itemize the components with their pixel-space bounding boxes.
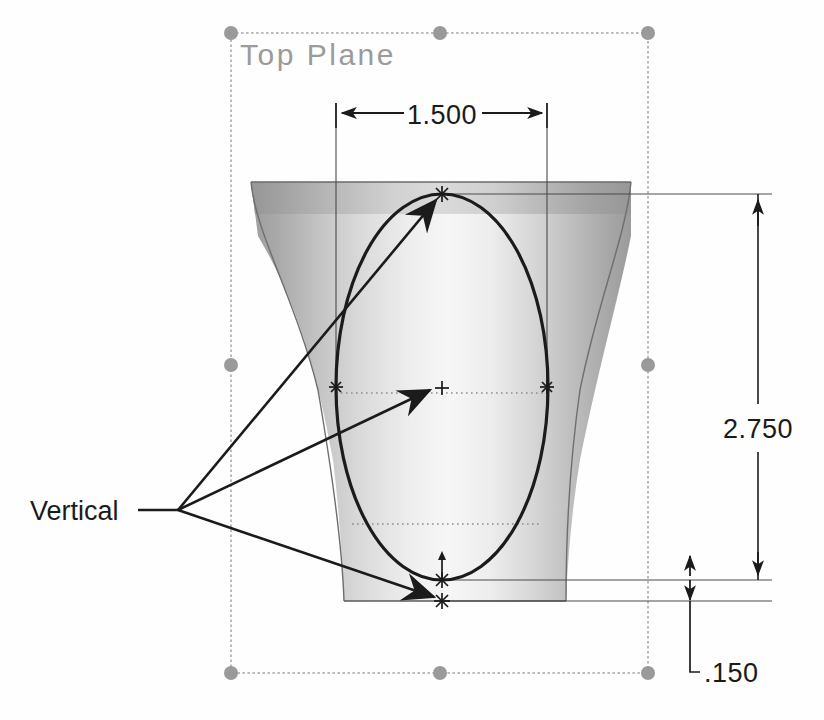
offset-dim-value[interactable]: .150: [704, 658, 759, 688]
offset-dim-leader: [690, 601, 700, 672]
cup-rim-band: [251, 182, 631, 214]
handle-mid-right[interactable]: [641, 358, 655, 372]
solid-body[interactable]: [251, 182, 631, 601]
handle-top-center[interactable]: [433, 26, 447, 40]
vertical-height-dimension[interactable]: 2.750: [723, 194, 793, 580]
handle-bottom-center[interactable]: [433, 666, 447, 680]
handle-bottom-left[interactable]: [224, 666, 238, 680]
cup-body-shape: [251, 182, 631, 601]
relation-label[interactable]: Vertical: [30, 496, 119, 526]
cad-drawing-canvas[interactable]: 1.500 2.750 .150 Vertical Top Plane: [0, 0, 824, 720]
handle-bottom-right[interactable]: [641, 666, 655, 680]
point-right-vertex[interactable]: [540, 380, 554, 394]
point-left-vertex[interactable]: [329, 380, 343, 394]
handle-top-left[interactable]: [224, 26, 238, 40]
handle-top-right[interactable]: [641, 26, 655, 40]
base-offset-dimension[interactable]: .150: [690, 556, 759, 688]
handle-mid-left[interactable]: [224, 358, 238, 372]
height-dim-value[interactable]: 2.750: [723, 414, 793, 444]
horizontal-width-dimension[interactable]: 1.500: [336, 100, 547, 130]
plane-label[interactable]: Top Plane: [240, 38, 396, 71]
width-dim-value[interactable]: 1.500: [407, 100, 477, 130]
cad-viewport[interactable]: 1.500 2.750 .150 Vertical Top Plane: [0, 0, 824, 720]
point-top-vertex[interactable]: [434, 186, 450, 202]
point-base[interactable]: [434, 593, 450, 609]
